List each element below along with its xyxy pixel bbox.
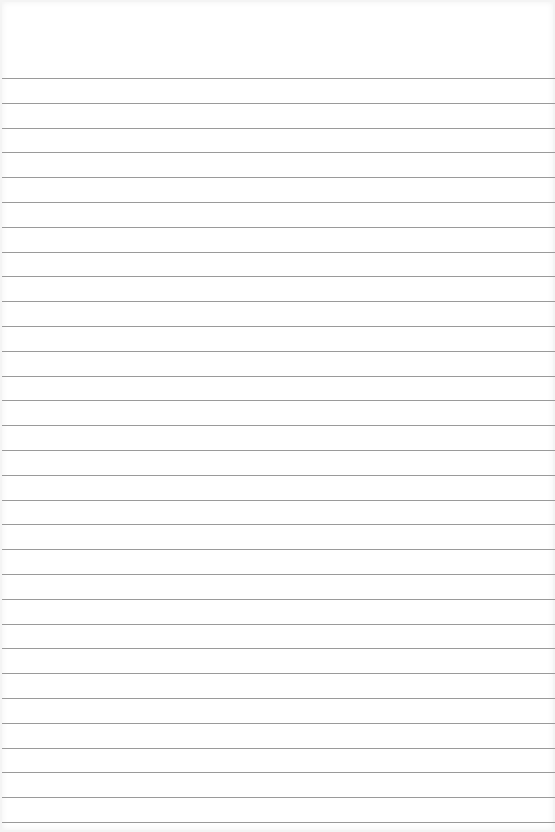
ruled-line [2,524,555,525]
ruled-line [2,748,555,749]
ruled-line [2,128,555,129]
ruled-line [2,772,555,773]
ruled-line [2,103,555,104]
ruled-line [2,624,555,625]
ruled-line [2,475,555,476]
ruled-line [2,227,555,228]
ruled-line [2,797,555,798]
ruled-line [2,326,555,327]
ruled-line [2,376,555,377]
ruled-line [2,177,555,178]
ruled-line [2,822,555,823]
ruled-line [2,202,555,203]
ruled-line [2,698,555,699]
ruled-line [2,152,555,153]
ruled-line [2,450,555,451]
ruled-line [2,574,555,575]
lined-paper-sheet [2,2,553,830]
ruled-line [2,723,555,724]
ruled-line [2,549,555,550]
ruled-line [2,400,555,401]
ruled-line [2,425,555,426]
ruled-line [2,351,555,352]
ruled-line [2,648,555,649]
ruled-line [2,500,555,501]
ruled-line [2,673,555,674]
ruled-line [2,78,555,79]
ruled-line [2,599,555,600]
ruled-line [2,252,555,253]
ruled-line [2,301,555,302]
ruled-line [2,276,555,277]
